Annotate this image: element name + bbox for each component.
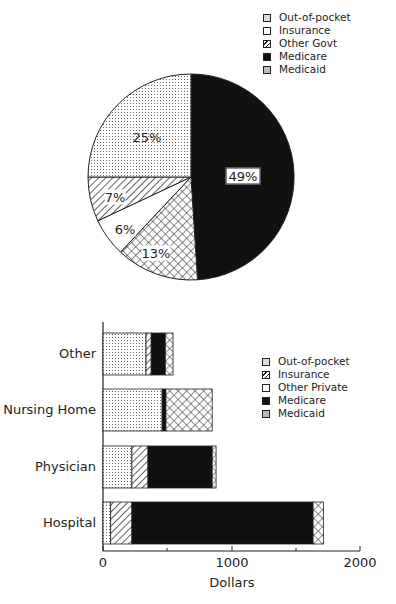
dotted-swatch-icon: [262, 358, 270, 366]
dotted-swatch-icon: [263, 14, 271, 22]
crosshatch-swatch-icon: [262, 410, 270, 418]
bar-segment: [151, 333, 165, 375]
legend-item: Other Private: [262, 381, 350, 394]
pie-label-medicare: 49%: [226, 168, 261, 185]
bar-segment: [166, 389, 212, 431]
white-swatch-icon: [262, 384, 270, 392]
category-label-other: Other: [0, 346, 96, 361]
bar-segment: [212, 446, 216, 488]
solid-swatch-icon: [262, 397, 270, 405]
pie-label-insurance: 6%: [115, 222, 136, 237]
pie-label-other-govt: 7%: [105, 190, 126, 205]
bar-segment: [103, 502, 111, 544]
bar-segment: [165, 333, 173, 375]
category-label-physician: Physician: [0, 459, 96, 474]
x-axis-title: Dollars: [209, 575, 254, 590]
legend-item: Medicaid: [262, 407, 350, 420]
bar-segment: [111, 502, 132, 544]
pie-legend: Out-of-pocket Insurance Other Govt Medic…: [263, 11, 351, 76]
white-swatch-icon: [263, 27, 271, 35]
x-tick-1000: 1000: [215, 555, 248, 570]
legend-item: Medicaid: [263, 63, 351, 76]
pie-slice-out-of-pocket: [88, 74, 191, 177]
diagonal-swatch-icon: [263, 40, 271, 48]
solid-swatch-icon: [263, 53, 271, 61]
x-tick-2000: 2000: [343, 555, 376, 570]
pie-label-medicaid: 13%: [142, 246, 171, 261]
bar-segment: [162, 389, 166, 431]
pie-label-out-of-pocket: 25%: [133, 130, 162, 145]
bar-legend: Out-of-pocket Insurance Other Private Me…: [262, 355, 350, 420]
crosshatch-swatch-icon: [263, 66, 271, 74]
legend-item: Medicare: [262, 394, 350, 407]
category-label-nursing-home: Nursing Home: [0, 402, 96, 417]
bar-segment: [132, 446, 148, 488]
legend-item: Out-of-pocket: [262, 355, 350, 368]
bar-segment: [148, 446, 212, 488]
bar-segment: [103, 333, 146, 375]
bar-segment: [132, 502, 313, 544]
x-tick-0: 0: [99, 555, 107, 570]
legend-item: Medicare: [263, 50, 351, 63]
bar-segment: [103, 389, 162, 431]
legend-item: Insurance: [263, 24, 351, 37]
bar-segment: [313, 502, 323, 544]
pie-chart: [88, 74, 294, 280]
diagonal-swatch-icon: [262, 371, 270, 379]
bar-segment: [146, 333, 151, 375]
bar-segment: [103, 446, 132, 488]
legend-item: Out-of-pocket: [263, 11, 351, 24]
chart-canvas: [0, 0, 396, 604]
legend-item: Other Govt: [263, 37, 351, 50]
category-label-hospital: Hospital: [0, 515, 96, 530]
legend-item: Insurance: [262, 368, 350, 381]
